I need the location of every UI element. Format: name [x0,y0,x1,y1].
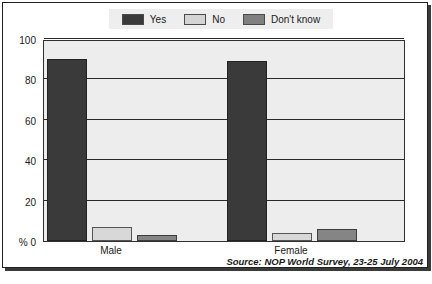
y-tick-label-40: 40 [25,156,36,167]
legend-label: Yes [150,14,166,25]
legend-swatch-dk [243,14,265,25]
bar-female-don-t-know [317,229,357,241]
y-tick-label-0: % 0 [19,237,36,248]
frame-shadow-right [428,5,431,271]
chart-legend: YesNoDon't know [109,9,333,29]
bar-male-yes [47,59,87,241]
plot-wrapper [43,40,405,242]
x-tick-label-male: Male [100,245,122,256]
legend-swatch-no [184,14,206,25]
legend-label: Don't know [271,14,320,25]
legend-label: No [212,14,225,25]
y-tick-label-60: 60 [25,115,36,126]
source-note: Source: NOP World Survey, 23-25 July 200… [226,256,423,267]
x-tick-label-female: Female [274,245,307,256]
y-tick-label-80: 80 [25,75,36,86]
bar-female-no [272,233,312,241]
y-tick-label-20: 20 [25,196,36,207]
bar-male-don-t-know [137,235,177,241]
bar-female-yes [227,61,267,241]
frame-shadow-bottom [5,268,431,271]
y-axis-labels: % 020406080100 [0,40,40,242]
bar-male-no [92,227,132,241]
legend-item-dk: Don't know [243,14,320,25]
legend-item-no: No [184,14,225,25]
gridline-100 [44,38,404,39]
legend-item-yes: Yes [122,14,166,25]
bar-series-container [44,41,404,241]
plot-area [43,40,405,242]
y-tick-label-100: 100 [19,35,36,46]
chart-figure: YesNoDon't know % 020406080100 MaleFemal… [0,0,432,284]
legend-swatch-yes [122,14,144,25]
